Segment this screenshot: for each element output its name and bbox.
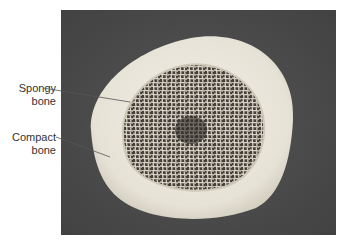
label-compact-bone: Compact bone [0,131,56,156]
bone-illustration [61,10,336,235]
label-spongy-bone: Spongy bone [4,82,56,107]
label-compact-line1: Compact [0,131,56,144]
bone-cross-section-photo [61,10,336,235]
label-spongy-line1: Spongy [4,82,56,95]
label-compact-line2: bone [0,144,56,157]
label-spongy-line2: bone [4,95,56,108]
